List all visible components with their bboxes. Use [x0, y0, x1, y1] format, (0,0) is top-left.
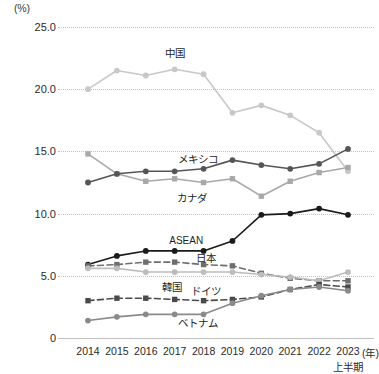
data-point [316, 284, 322, 290]
data-point [85, 86, 91, 92]
data-point [230, 263, 235, 268]
x-tick-2016: 2016 [134, 345, 157, 357]
series-label-6: 韓国 [162, 278, 182, 293]
x-tick-2015: 2015 [105, 345, 128, 357]
series-5 [85, 265, 351, 283]
x-tick-2022: 2022 [307, 345, 330, 357]
data-point [172, 168, 178, 174]
x-axis-sub-note: 上半期 [333, 359, 363, 374]
x-tick-2014: 2014 [76, 345, 99, 357]
data-point [143, 179, 148, 184]
data-point [230, 300, 236, 306]
data-point [143, 295, 148, 300]
data-point [287, 166, 293, 172]
series-line [88, 209, 348, 265]
series-label-5: ドイツ [191, 282, 221, 297]
data-point [143, 73, 149, 79]
data-point [85, 298, 90, 303]
data-point [258, 293, 264, 299]
y-tick-5: 5.0 [10, 270, 56, 282]
data-point [114, 171, 120, 177]
data-point [172, 176, 177, 181]
data-point [85, 151, 90, 156]
x-tick-2023: 2023 [336, 345, 359, 357]
data-point [316, 170, 321, 175]
x-tick-2017: 2017 [163, 345, 186, 357]
plot-area: 中国メキシコカナダASEAN日本ドイツ韓国ベトナム [58, 0, 376, 374]
data-point [172, 311, 178, 317]
data-point [143, 168, 149, 174]
x-axis-unit-label: (年) [362, 345, 379, 360]
data-point [316, 130, 322, 136]
y-tick-20: 20.0 [10, 83, 56, 95]
data-point [114, 265, 120, 271]
data-point [201, 269, 207, 275]
data-point [114, 253, 120, 259]
series-3 [85, 206, 351, 268]
data-point [201, 298, 206, 303]
series-line [88, 154, 348, 196]
series-2 [85, 146, 351, 185]
data-point [172, 248, 178, 254]
data-point [114, 314, 120, 320]
data-point [85, 180, 91, 186]
data-point [316, 161, 322, 167]
data-point [345, 288, 351, 294]
data-point [230, 238, 236, 244]
series-line [88, 69, 348, 171]
data-point [114, 68, 120, 74]
series-label-3: ASEAN [169, 234, 203, 245]
data-point [287, 211, 293, 217]
series-line [88, 268, 348, 280]
y-tick-25: 25.0 [10, 21, 56, 33]
data-point [258, 162, 264, 168]
data-point [172, 259, 177, 264]
data-point [172, 66, 178, 72]
y-tick-10: 10.0 [10, 208, 56, 220]
data-point [345, 212, 351, 218]
x-tick-2018: 2018 [192, 345, 215, 357]
data-point [345, 165, 350, 170]
data-point [230, 110, 236, 116]
series-line [88, 149, 348, 183]
data-point [201, 71, 207, 77]
x-tick-2021: 2021 [279, 345, 302, 357]
data-point [345, 278, 350, 283]
series-0 [85, 66, 351, 174]
data-point [287, 287, 293, 293]
data-point [143, 248, 149, 254]
y-tick-0: 0 [10, 332, 56, 344]
data-point [259, 193, 264, 198]
series-label-4: 日本 [196, 250, 216, 265]
series-1 [85, 151, 350, 199]
data-point [230, 176, 235, 181]
series-label-0: 中国 [165, 44, 185, 59]
data-point [230, 157, 236, 163]
y-tick-15: 15.0 [10, 145, 56, 157]
data-point [287, 274, 293, 280]
data-point [288, 179, 293, 184]
data-point [201, 180, 206, 185]
data-point [258, 212, 264, 218]
data-point [258, 272, 264, 278]
data-point [287, 112, 293, 118]
data-point [143, 269, 149, 275]
data-point [85, 318, 91, 324]
data-point [143, 311, 149, 317]
data-point [143, 259, 148, 264]
series-label-2: カナダ [177, 190, 207, 205]
x-tick-2019: 2019 [221, 345, 244, 357]
data-point [172, 297, 177, 302]
x-tick-2020: 2020 [250, 345, 273, 357]
data-point [201, 166, 207, 172]
data-point [172, 269, 178, 275]
data-point [316, 206, 322, 212]
data-point [258, 102, 264, 108]
data-point [114, 295, 119, 300]
data-point [345, 269, 351, 275]
data-point [345, 146, 351, 152]
series-label-1: メキシコ [178, 150, 218, 165]
data-point [85, 265, 91, 271]
data-point [230, 269, 236, 275]
